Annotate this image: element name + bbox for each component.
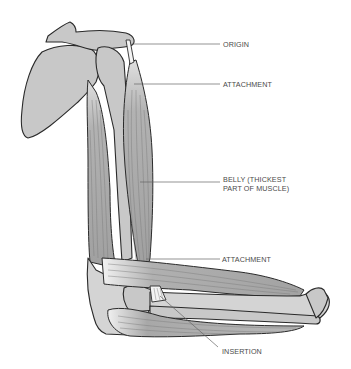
label-attachment-bottom: ATTACHMENT <box>222 255 271 264</box>
label-belly: BELLY (THICKEST PART OF MUSCLE) <box>223 175 289 193</box>
label-belly-line1: BELLY (THICKEST <box>223 175 289 184</box>
label-insertion: INSERTION <box>222 347 262 356</box>
arm-anatomy-illustration <box>0 0 351 369</box>
label-attachment-top: ATTACHMENT <box>223 80 272 89</box>
label-belly-line2: PART OF MUSCLE) <box>223 184 289 193</box>
label-origin: ORIGIN <box>223 40 249 49</box>
